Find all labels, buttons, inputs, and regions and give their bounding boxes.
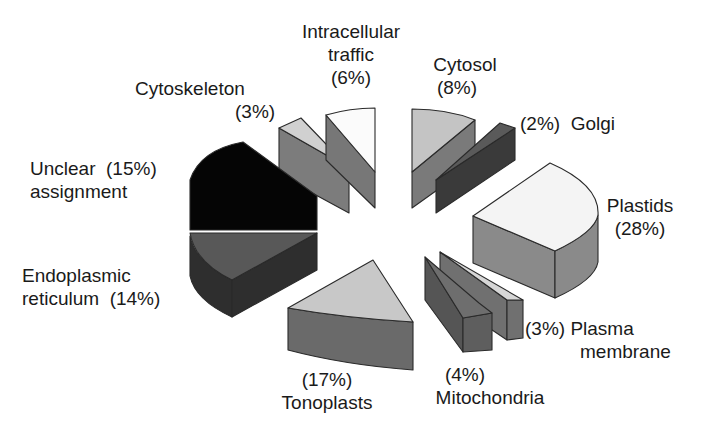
label-text: Plastids — [600, 194, 680, 217]
label-tonoplasts: (17%) Tonoplasts — [252, 368, 402, 414]
label-intracellular-traffic: Intracellular traffic (6%) — [286, 20, 416, 89]
label-text: traffic — [286, 43, 416, 66]
label-percent: (6%) — [286, 66, 416, 89]
label-percent: (28%) — [600, 217, 680, 240]
label-text: Mitochondria — [420, 386, 560, 409]
label-percent: (3%) — [135, 100, 275, 123]
label-cytoskeleton: Cytoskeleton (3%) — [135, 77, 275, 123]
label-endoplasmic-reticulum: Endoplasmic reticulum (14%) — [22, 264, 160, 310]
label-text: Cytosol — [415, 53, 515, 76]
slice-plastids — [473, 163, 598, 298]
label-text: membrane — [525, 340, 671, 363]
label-text: Golgi — [571, 113, 615, 134]
label-cytosol: Cytosol (8%) — [415, 53, 515, 99]
label-plastids: Plastids (28%) — [600, 194, 680, 240]
label-golgi: (2%) Golgi — [520, 112, 615, 135]
label-plasma-membrane: (3%) Plasma membrane — [525, 317, 671, 363]
label-percent: (17%) — [252, 368, 402, 391]
label-text: Tonoplasts — [252, 391, 402, 414]
label-text: Cytoskeleton — [135, 77, 275, 100]
label-percent: (2%) — [520, 113, 560, 134]
label-percent: (15%) — [106, 158, 157, 179]
label-mitochondria: (4%) Mitochondria — [420, 363, 560, 409]
label-percent: (14%) — [110, 288, 161, 309]
label-text: Intracellular — [286, 20, 416, 43]
label-text: Plasma — [570, 318, 633, 339]
label-percent: (3%) — [525, 318, 565, 339]
slice-tonoplasts — [288, 260, 413, 370]
label-percent: (8%) — [399, 76, 515, 99]
label-unclear-assignment: Unclear (15%) assignment — [30, 157, 157, 203]
label-text: reticulum — [22, 288, 99, 309]
label-text: Unclear — [30, 158, 95, 179]
label-text: assignment — [30, 180, 157, 203]
label-text: Endoplasmic — [22, 264, 160, 287]
